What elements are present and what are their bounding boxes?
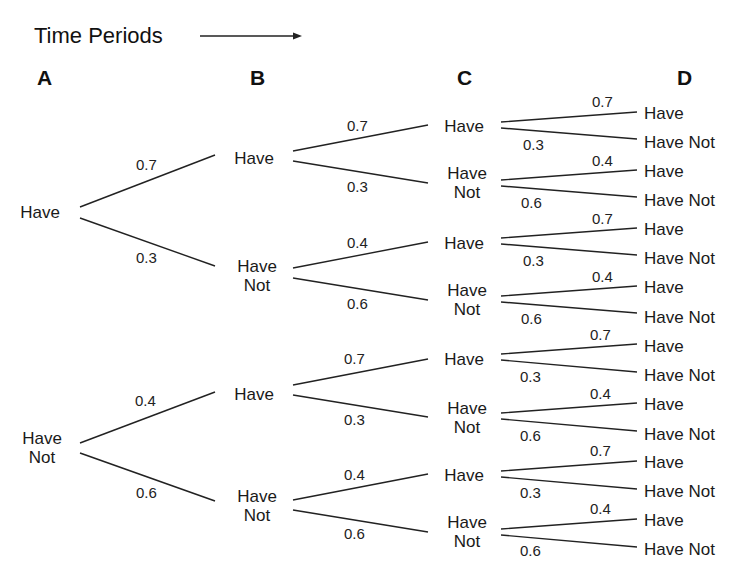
leaf-node: Have <box>644 453 684 472</box>
branch-probability: 0.7 <box>136 157 157 173</box>
branch-line <box>501 403 637 413</box>
branch-probability: 0.3 <box>523 253 544 269</box>
leaf-node: Have Not <box>644 482 715 501</box>
leaf-node: Have <box>644 395 684 414</box>
branch-probability: 0.6 <box>520 543 541 559</box>
branch-line <box>501 228 637 238</box>
arrow-head-icon <box>293 33 302 40</box>
branch-line <box>501 286 637 296</box>
leaf-node: Have Not <box>644 540 715 559</box>
node-c8: HaveNot <box>437 513 497 551</box>
branch-probability: 0.3 <box>344 412 365 428</box>
tree-lines <box>0 0 750 578</box>
branch-probability: 0.7 <box>347 118 368 134</box>
branch-probability: 0.6 <box>344 526 365 542</box>
period-header-a: A <box>37 66 52 90</box>
branch-probability: 0.6 <box>136 485 157 501</box>
branch-line <box>501 461 637 471</box>
leaf-node: Have Not <box>644 133 715 152</box>
branch-probability: 0.7 <box>590 327 611 343</box>
leaf-node: Have Not <box>644 308 715 327</box>
leaf-node: Have <box>644 337 684 356</box>
branch-probability: 0.6 <box>520 428 541 444</box>
node-b3: Have <box>224 385 284 404</box>
leaf-node: Have <box>644 511 684 530</box>
branch-probability: 0.7 <box>592 94 613 110</box>
node-c2: HaveNot <box>437 164 497 202</box>
period-header-c: C <box>457 66 472 90</box>
leaf-node: Have Not <box>644 191 715 210</box>
branch-probability: 0.3 <box>520 369 541 385</box>
node-b4: HaveNot <box>227 487 287 525</box>
branch-probability: 0.6 <box>521 195 542 211</box>
node-a1: Have <box>10 203 70 222</box>
node-a2: HaveNot <box>12 429 72 467</box>
node-c3: Have <box>434 234 494 253</box>
node-c7: Have <box>434 466 494 485</box>
node-c4: HaveNot <box>437 281 497 319</box>
branch-probability: 0.7 <box>590 443 611 459</box>
branch-line <box>501 244 637 255</box>
branch-probability: 0.4 <box>135 393 156 409</box>
node-c1: Have <box>434 117 494 136</box>
leaf-node: Have <box>644 278 684 297</box>
node-c5: Have <box>434 350 494 369</box>
node-b1: Have <box>224 149 284 168</box>
leaf-node: Have Not <box>644 366 715 385</box>
branch-probability: 0.7 <box>344 351 365 367</box>
branch-probability: 0.4 <box>592 153 613 169</box>
leaf-node: Have <box>644 104 684 123</box>
period-header-d: D <box>677 66 692 90</box>
branch-probability: 0.6 <box>347 296 368 312</box>
leaf-node: Have Not <box>644 249 715 268</box>
leaf-node: Have <box>644 220 684 239</box>
branch-probability: 0.6 <box>521 311 542 327</box>
node-b2: HaveNot <box>227 257 287 295</box>
branch-probability: 0.4 <box>590 501 611 517</box>
period-header-b: B <box>250 66 265 90</box>
branch-probability: 0.3 <box>347 179 368 195</box>
branch-probability: 0.4 <box>344 467 365 483</box>
branch-probability: 0.4 <box>347 235 368 251</box>
leaf-node: Have <box>644 162 684 181</box>
branch-line <box>501 128 637 139</box>
branch-line <box>501 170 637 180</box>
branch-line <box>501 519 637 529</box>
node-c6: HaveNot <box>437 399 497 437</box>
branch-probability: 0.4 <box>590 386 611 402</box>
leaf-node: Have Not <box>644 425 715 444</box>
branch-line <box>501 344 637 354</box>
branch-probability: 0.7 <box>592 211 613 227</box>
branch-line <box>501 112 637 122</box>
branch-probability: 0.3 <box>136 250 157 266</box>
branch-probability: 0.3 <box>520 485 541 501</box>
branch-probability: 0.3 <box>523 137 544 153</box>
branch-probability: 0.4 <box>592 269 613 285</box>
